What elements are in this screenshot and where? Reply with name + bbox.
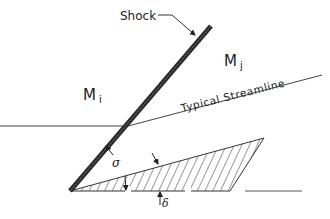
upstream-mach-label: Mi bbox=[83, 86, 102, 105]
delta-arrow-top bbox=[152, 153, 158, 164]
downstream-mach-label: Mj bbox=[224, 52, 243, 71]
streamline-label: Typical Streamline bbox=[179, 76, 286, 114]
wedge bbox=[70, 138, 264, 191]
shock-leader bbox=[158, 15, 195, 35]
shock-label: Shock bbox=[120, 9, 156, 23]
deflection-angle-label: δ bbox=[162, 197, 169, 210]
oblique-shock-diagram: Shock Mi Mj Typical Streamline σ δ bbox=[0, 0, 330, 219]
shock-angle-label: σ bbox=[112, 156, 121, 170]
